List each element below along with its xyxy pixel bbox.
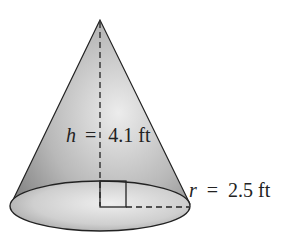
height-label: h = 4.1 ft (66, 124, 151, 146)
radius-label: r = 2.5 ft (189, 179, 271, 201)
cone-diagram: h = 4.1 ft r = 2.5 ft (0, 0, 288, 244)
